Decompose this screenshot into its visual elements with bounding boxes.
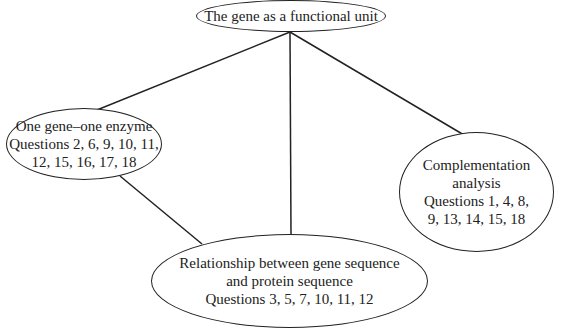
node-line: Complementation: [423, 156, 530, 174]
edge-one-gene-to-relationship: [120, 176, 202, 244]
node-line: Questions 1, 4, 8,: [424, 192, 529, 210]
edge-root-to-relationship: [290, 32, 291, 236]
node-line: and protein sequence: [226, 272, 353, 290]
node-line: One gene–one enzyme: [16, 117, 153, 135]
edge-root-to-one-gene: [82, 32, 290, 116]
complementation-node: Complementation analysis Questions 1, 4,…: [399, 132, 554, 252]
root-node: The gene as a functional unit: [196, 0, 386, 32]
node-line: Relationship between gene sequence: [179, 254, 399, 272]
node-line: 12, 15, 16, 17, 18: [32, 153, 137, 171]
node-line: 9, 13, 14, 15, 18: [428, 210, 526, 228]
edge-root-to-complementation: [290, 32, 464, 135]
node-line: Questions 2, 6, 9, 10, 11,: [9, 135, 158, 153]
one-gene-one-enzyme-node: One gene–one enzyme Questions 2, 6, 9, 1…: [6, 108, 162, 180]
relationship-node: Relationship between gene sequence and p…: [151, 234, 428, 328]
node-line: Questions 3, 5, 7, 10, 11, 12: [205, 290, 373, 308]
root-label: The gene as a functional unit: [204, 7, 378, 25]
node-line: analysis: [452, 174, 500, 192]
